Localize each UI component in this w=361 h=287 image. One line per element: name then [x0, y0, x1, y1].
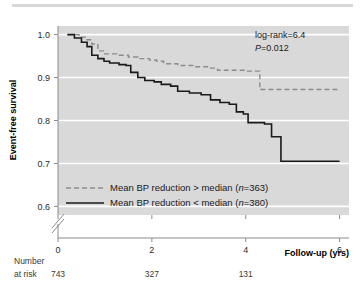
- legend-label-above-median-prefix: Mean BP reduction > median (: [110, 182, 239, 193]
- risk-values-group: 743327131: [51, 269, 253, 279]
- kaplan-meier-chart: 0.60.70.80.91.0 0246 Event-free survival…: [0, 0, 361, 287]
- y-tick-label-0.6: 0.6: [37, 202, 50, 212]
- risk-value-0yr: 743: [51, 269, 65, 279]
- y-axis-title: Event-free survival: [8, 80, 18, 161]
- risk-value-2yr: 327: [145, 269, 159, 279]
- legend-label-above-median: Mean BP reduction > median (n=363): [110, 182, 268, 193]
- y-tick-label-0.8: 0.8: [37, 116, 50, 126]
- y-tick-group: 0.60.70.80.91.0: [37, 30, 58, 212]
- p-value-number: =0.012: [261, 43, 289, 53]
- x-tick-label-4: 4: [243, 245, 248, 255]
- risk-label-line2: at risk: [14, 269, 37, 279]
- x-axis-title: Follow-up (yrs): [285, 248, 350, 258]
- x-tick-label-0: 0: [55, 245, 60, 255]
- y-tick-label-0.7: 0.7: [37, 159, 50, 169]
- number-at-risk-table: Number at risk 743327131: [14, 256, 253, 279]
- legend-label-above-median-suffix: =363): [244, 182, 269, 193]
- y-tick-label-1.0: 1.0: [37, 30, 50, 40]
- figure-container: 0.60.70.80.91.0 0246 Event-free survival…: [0, 0, 361, 287]
- risk-value-4yr: 131: [239, 269, 253, 279]
- legend-label-below-median-suffix: =380): [244, 197, 269, 208]
- y-tick-label-0.9: 0.9: [37, 73, 50, 83]
- legend-label-below-median: Mean BP reduction < median (n=380): [110, 197, 268, 208]
- risk-label-line1: Number: [14, 256, 44, 266]
- x-tick-label-2: 2: [149, 245, 154, 255]
- log-rank-annotation: log-rank=6.4: [255, 30, 305, 40]
- legend-label-below-median-prefix: Mean BP reduction < median (: [110, 197, 239, 208]
- p-value-annotation: P=0.012: [255, 43, 289, 53]
